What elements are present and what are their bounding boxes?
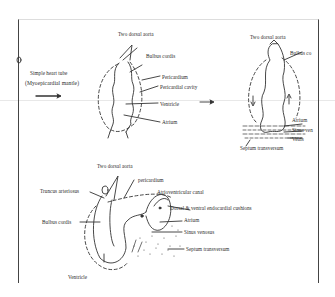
panel-1-title: Two dorsal aorta	[118, 31, 154, 37]
label-pericardial-cavity: Pericardial cavity	[160, 84, 197, 90]
label-atrium-2: Atrium	[292, 117, 307, 123]
panel-1-caption-line-2: (Myoepicardial mantle)	[25, 80, 79, 86]
label-sinus-venosus-3: Sinus venosus	[184, 229, 214, 235]
label-septum-transversum-3: Septum transversum	[186, 246, 229, 252]
label-veins: Veins	[292, 136, 304, 142]
label-endocardial-cushions: Dorsal & ventral endocardial cushions	[170, 205, 252, 211]
label-septum-transversum-2: Septum transversum	[240, 145, 283, 151]
label-ventricle-3: Ventricle	[68, 274, 87, 280]
label-sinus-venosus-2: Sinus ven	[292, 127, 317, 133]
panel-1-caption-line-1: Simple heart tube	[30, 70, 67, 76]
frame-loop-mark	[17, 57, 21, 63]
label-pericardium-3: pericardium	[138, 177, 164, 183]
label-bulbus-cordis: Bulbus cordis	[146, 53, 175, 59]
label-bulbus-cordis-3: Bulbus cordis	[42, 219, 71, 225]
embryonic-heart-diagram	[0, 0, 335, 297]
panel-2-title: Two dorsal aorta	[250, 34, 286, 40]
panel-3-title: Two dorsal aorta	[97, 163, 133, 169]
label-atrium: Atrium	[162, 119, 177, 125]
label-ventricle: Ventricle	[160, 101, 179, 107]
label-bulbus-cordis-2: Bulbus co	[290, 50, 317, 56]
label-truncus-arteriosus: Truncus arteriosus	[40, 188, 79, 194]
label-atrium-3: Atrium	[184, 217, 199, 223]
label-atrioventricular-canal: Atrioventricular canal	[157, 189, 204, 195]
label-pericardium: Pericardium	[162, 74, 188, 80]
